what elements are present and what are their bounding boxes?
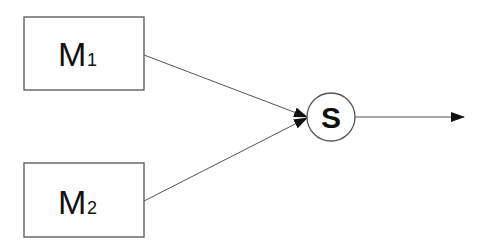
node-m1-label: M xyxy=(58,35,86,73)
node-s: S xyxy=(307,93,355,141)
edge-m2-to-s xyxy=(144,118,307,201)
block-diagram: M 1 M 2 S xyxy=(0,0,493,249)
diagram-canvas: M 1 M 2 S xyxy=(0,0,493,249)
edge-m1-to-s xyxy=(144,55,307,117)
node-s-label: S xyxy=(321,101,341,134)
node-m2-label: M xyxy=(58,183,86,221)
node-m2-subscript: 2 xyxy=(87,198,97,218)
node-m2: M 2 xyxy=(24,163,144,237)
node-m1: M 1 xyxy=(24,17,144,90)
node-m1-subscript: 1 xyxy=(87,50,97,70)
